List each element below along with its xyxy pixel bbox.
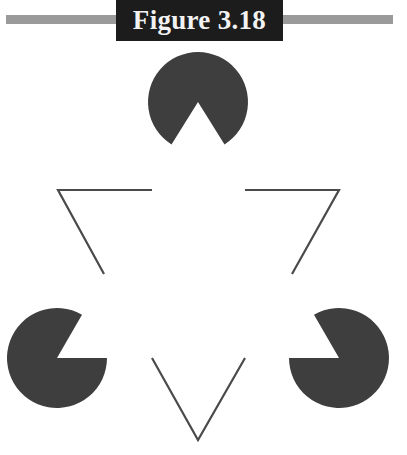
pacman-bottom-right-icon: [289, 308, 389, 408]
line-corner-left: [58, 190, 152, 274]
pacman-top-icon: [148, 52, 248, 144]
line-corner-bottom: [152, 358, 245, 440]
line-corner-right: [245, 190, 339, 274]
kanizsa-figure: [0, 0, 407, 455]
pacman-bottom-left-icon: [7, 308, 107, 408]
